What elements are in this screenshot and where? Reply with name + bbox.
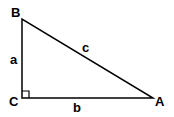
triangle-diagram: B C A a c b bbox=[0, 0, 174, 117]
right-angle-marker bbox=[22, 91, 29, 98]
triangle-shape bbox=[22, 19, 153, 98]
vertex-label-a: A bbox=[155, 94, 165, 109]
side-label-c: c bbox=[82, 40, 89, 55]
side-label-a: a bbox=[10, 52, 18, 67]
vertex-label-b: B bbox=[11, 5, 20, 20]
side-label-b: b bbox=[73, 100, 81, 115]
vertex-label-c: C bbox=[9, 94, 19, 109]
